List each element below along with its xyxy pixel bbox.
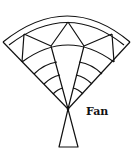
- fan-left-triangle: [22, 34, 51, 62]
- fan-handle: [59, 109, 78, 147]
- fan-diagram: [0, 0, 133, 161]
- fan-top-triangle: [51, 22, 84, 46]
- fan-left-arc-2: [44, 75, 60, 84]
- fan-pivot: [67, 108, 70, 111]
- fan-center-spokes: [51, 46, 84, 109]
- fan-label: Fan: [86, 105, 108, 118]
- fan-right-arc-2: [76, 75, 92, 84]
- fan-outer-arc: [3, 16, 130, 42]
- fan-middle-arc: [22, 45, 114, 62]
- fan-right-arc-3: [73, 88, 83, 94]
- fan-left-arc-3: [53, 88, 63, 94]
- fan-left-arc-1: [34, 62, 57, 74]
- fan-right-arc-1: [79, 62, 102, 74]
